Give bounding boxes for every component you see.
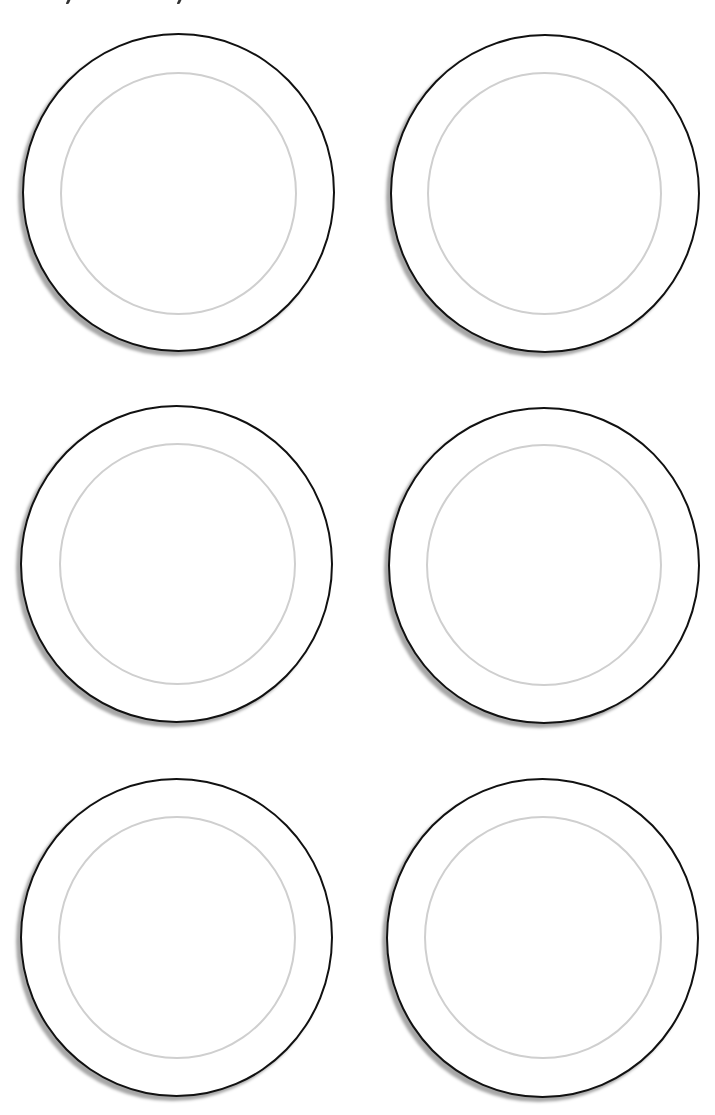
cut-off-header-text-fragment <box>177 0 183 4</box>
plate-inner-rim-5 <box>58 816 296 1059</box>
plate-inner-rim-4 <box>426 444 662 686</box>
plate-inner-rim-2 <box>427 72 662 315</box>
plate-inner-rim-6 <box>424 816 662 1059</box>
plate-inner-rim-3 <box>59 443 296 685</box>
cut-off-header-text-fragment <box>66 0 72 4</box>
plate-inner-rim-1 <box>60 72 297 315</box>
